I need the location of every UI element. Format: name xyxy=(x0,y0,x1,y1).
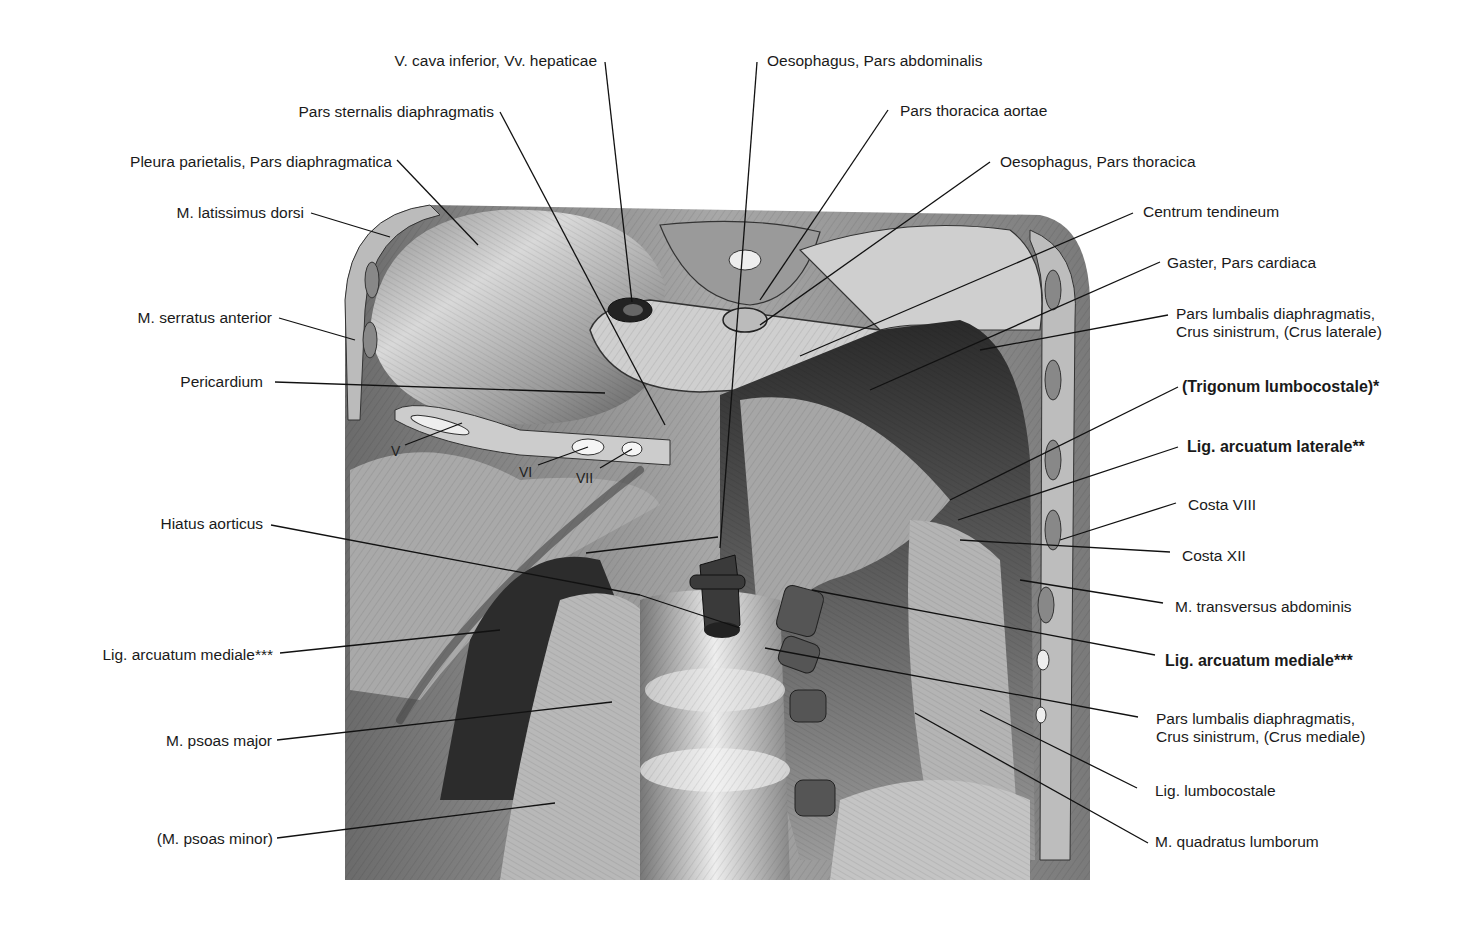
label-gaster-pars-cardiaca: Gaster, Pars cardiaca xyxy=(1167,253,1316,272)
rib-number-vi: VI xyxy=(519,464,532,480)
label-serratus-anterior: M. serratus anterior xyxy=(138,308,272,327)
label-pars-sternalis: Pars sternalis diaphragmatis xyxy=(298,102,494,121)
label-lig-lumbocostale: Lig. lumbocostale xyxy=(1155,781,1276,800)
label-oesophagus-abdominalis: Oesophagus, Pars abdominalis xyxy=(767,51,982,70)
label-crus-laterale-line2: Crus sinistrum, (Crus laterale) xyxy=(1176,322,1382,341)
label-latissimus-dorsi: M. latissimus dorsi xyxy=(177,203,304,222)
label-pars-thoracica-aortae: Pars thoracica aortae xyxy=(900,101,1047,120)
label-lig-arcuatum-mediale-right: Lig. arcuatum mediale*** xyxy=(1165,651,1353,670)
label-psoas-minor: (M. psoas minor) xyxy=(157,829,273,848)
label-costa-xii: Costa XII xyxy=(1182,546,1246,565)
label-psoas-major: M. psoas major xyxy=(166,731,272,750)
label-crus-mediale-line1: Pars lumbalis diaphragmatis, xyxy=(1156,709,1355,728)
quadratus-lumborum xyxy=(830,780,1030,880)
label-vena-cava: V. cava inferior, Vv. hepaticae xyxy=(395,51,597,70)
anatomical-illustration: V. cava inferior, Vv. hepaticae Pars ste… xyxy=(0,0,1481,928)
label-crus-mediale-line2: Crus sinistrum, (Crus mediale) xyxy=(1156,727,1365,746)
label-lig-arcuatum-mediale-left: Lig. arcuatum mediale*** xyxy=(102,645,273,664)
label-pericardium: Pericardium xyxy=(180,372,263,391)
label-oesophagus-thoracica: Oesophagus, Pars thoracica xyxy=(1000,152,1196,171)
label-centrum-tendineum: Centrum tendineum xyxy=(1143,202,1279,221)
label-costa-viii: Costa VIII xyxy=(1188,495,1256,514)
label-hiatus-aorticus: Hiatus aorticus xyxy=(160,514,263,533)
rib-number-v: V xyxy=(391,443,400,459)
rib-number-vii: VII xyxy=(576,470,593,486)
label-quadratus-lumborum: M. quadratus lumborum xyxy=(1155,832,1319,851)
label-transversus-abdominis: M. transversus abdominis xyxy=(1175,597,1352,616)
label-lig-arcuatum-laterale: Lig. arcuatum laterale** xyxy=(1187,437,1365,456)
label-crus-laterale-line1: Pars lumbalis diaphragmatis, xyxy=(1176,304,1375,323)
label-pleura-parietalis: Pleura parietalis, Pars diaphragmatica xyxy=(130,152,392,171)
label-trigonum-lumbocostale: (Trigonum lumbocostale)* xyxy=(1182,377,1379,396)
